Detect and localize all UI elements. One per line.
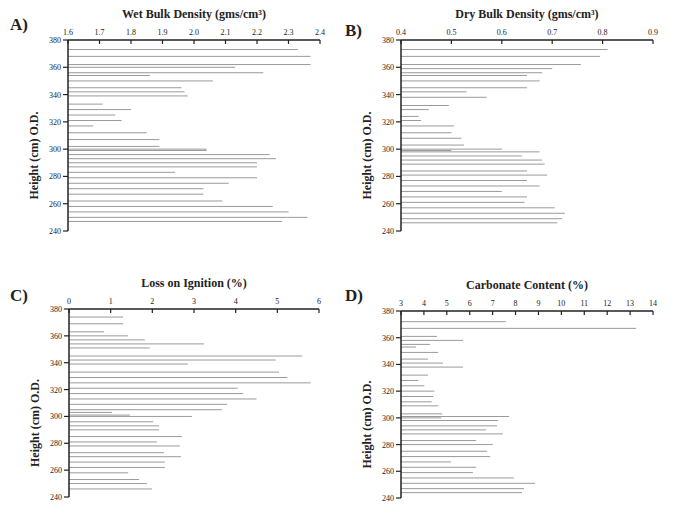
x-tick-label: 10 <box>557 299 565 308</box>
x-tick-label: 3 <box>192 297 196 306</box>
x-tick-label: 0.5 <box>446 28 456 37</box>
y-tick-label: 280 <box>50 439 62 448</box>
y-tick-label: 380 <box>382 36 394 45</box>
y-tick-label: 260 <box>382 200 394 209</box>
y-tick-label: 320 <box>382 387 394 396</box>
x-tick-label: 1.8 <box>126 28 136 37</box>
y-tick-label: 340 <box>49 91 61 100</box>
y-tick-label: 340 <box>382 360 394 369</box>
x-tick-label: 8 <box>514 299 518 308</box>
panel-label: A) <box>10 15 28 34</box>
y-tick-label: 280 <box>382 441 394 450</box>
x-tick-label: 5 <box>275 297 279 306</box>
x-tick-label: 11 <box>580 299 588 308</box>
x-tick-label: 7 <box>491 299 495 308</box>
axis-title: Carbonate Content (%) <box>466 278 588 292</box>
x-tick-label: 13 <box>626 299 634 308</box>
y-tick-label: 260 <box>50 466 62 475</box>
x-tick-label: 1.7 <box>95 28 105 37</box>
y-tick-label: 360 <box>50 332 62 341</box>
y-tick-label: 240 <box>382 494 394 503</box>
chart-svg: D)Carbonate Content (%)34567891011121314… <box>340 265 676 526</box>
panel-a-wet-bulk-density: A)Wet Bulk Density (gms/cm³)1.61.71.81.9… <box>0 0 340 262</box>
y-tick-label: 260 <box>49 200 61 209</box>
y-axis-title: Height (cm) O.D. <box>360 381 374 469</box>
y-tick-label: 320 <box>49 118 61 127</box>
x-tick-label: 0 <box>67 297 71 306</box>
chart-svg: B)Dry Bulk Density (gms/cm³)0.40.50.60.7… <box>340 0 676 262</box>
y-tick-label: 280 <box>382 172 394 181</box>
x-tick-label: 6 <box>317 297 321 306</box>
y-tick-label: 360 <box>382 63 394 72</box>
y-tick-label: 240 <box>382 227 394 236</box>
panel-label: D) <box>345 286 363 305</box>
x-tick-label: 0.7 <box>547 28 557 37</box>
x-tick-label: 0.9 <box>648 28 658 37</box>
chart-svg: C)Loss on Ignition (%)012345624026028030… <box>0 265 340 526</box>
panel-c-loss-on-ignition: C)Loss on Ignition (%)012345624026028030… <box>0 265 340 526</box>
x-tick-label: 2.3 <box>284 28 294 37</box>
y-tick-label: 380 <box>382 307 394 316</box>
y-tick-label: 380 <box>49 36 61 45</box>
x-tick-label: 0.6 <box>497 28 507 37</box>
y-tick-label: 280 <box>49 172 61 181</box>
y-tick-label: 260 <box>382 467 394 476</box>
x-tick-label: 2.1 <box>221 28 231 37</box>
axis-title: Loss on Ignition (%) <box>141 276 247 290</box>
x-tick-label: 4 <box>422 299 426 308</box>
panel-label: C) <box>10 286 28 305</box>
x-tick-label: 0.4 <box>396 28 406 37</box>
y-tick-label: 360 <box>49 63 61 72</box>
y-tick-label: 240 <box>50 493 62 502</box>
y-axis-title: Height (cm) O.D. <box>27 112 41 200</box>
x-tick-label: 12 <box>603 299 611 308</box>
y-axis-title: Height (cm) O.D. <box>360 112 374 200</box>
y-tick-label: 300 <box>382 145 394 154</box>
axis-title: Dry Bulk Density (gms/cm³) <box>455 7 598 21</box>
panel-d-carbonate-content: D)Carbonate Content (%)34567891011121314… <box>340 265 676 526</box>
y-tick-label: 300 <box>50 412 62 421</box>
x-tick-label: 2.4 <box>315 28 325 37</box>
x-tick-label: 6 <box>468 299 472 308</box>
chart-svg: A)Wet Bulk Density (gms/cm³)1.61.71.81.9… <box>0 0 340 262</box>
y-tick-label: 340 <box>382 91 394 100</box>
x-tick-label: 9 <box>536 299 540 308</box>
y-axis-title: Height (cm) O.D. <box>28 379 42 467</box>
y-tick-label: 380 <box>50 305 62 314</box>
x-tick-label: 5 <box>445 299 449 308</box>
y-tick-label: 320 <box>50 386 62 395</box>
y-tick-label: 340 <box>50 359 62 368</box>
x-tick-label: 3 <box>399 299 403 308</box>
x-tick-label: 1.9 <box>158 28 168 37</box>
x-tick-label: 0.8 <box>598 28 608 37</box>
y-tick-label: 240 <box>49 227 61 236</box>
x-tick-label: 4 <box>234 297 238 306</box>
x-tick-label: 1 <box>109 297 113 306</box>
y-tick-label: 320 <box>382 118 394 127</box>
panel-label: B) <box>345 21 362 40</box>
x-tick-label: 2.0 <box>189 28 199 37</box>
y-tick-label: 360 <box>382 334 394 343</box>
x-tick-label: 14 <box>649 299 657 308</box>
x-tick-label: 2.2 <box>252 28 262 37</box>
panel-b-dry-bulk-density: B)Dry Bulk Density (gms/cm³)0.40.50.60.7… <box>340 0 676 262</box>
axis-title: Wet Bulk Density (gms/cm³) <box>122 7 266 21</box>
x-tick-label: 1.6 <box>63 28 73 37</box>
y-tick-label: 300 <box>49 145 61 154</box>
x-tick-label: 2 <box>150 297 154 306</box>
y-tick-label: 300 <box>382 414 394 423</box>
